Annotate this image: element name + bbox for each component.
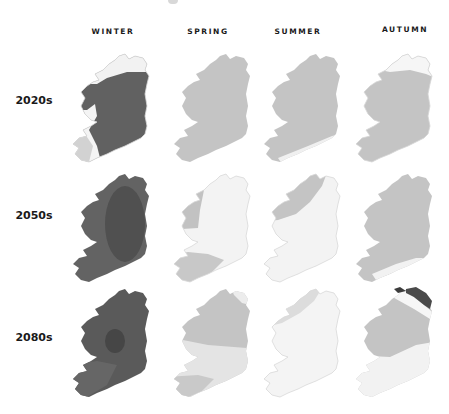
map-2050s-autumn	[350, 170, 440, 288]
map-2080s-winter	[67, 285, 157, 403]
map-2080s-spring	[168, 285, 258, 403]
map-2050s-summer	[258, 170, 348, 288]
row-label-2050s: 2050s	[14, 209, 54, 222]
map-2020s-autumn	[350, 50, 440, 168]
map-2020s-spring	[168, 50, 258, 168]
map-2020s-summer	[258, 50, 348, 168]
map-2050s-spring	[168, 170, 258, 288]
column-header-autumn: AUTUMN	[365, 25, 445, 34]
column-header-summer: SUMMER	[258, 27, 338, 36]
column-header-spring: SPRING	[168, 27, 248, 36]
map-2050s-winter	[67, 170, 157, 288]
row-label-2080s: 2080s	[14, 331, 54, 344]
row-label-2020s: 2020s	[14, 94, 54, 107]
map-2080s-autumn	[350, 285, 440, 403]
column-header-winter: WINTER	[73, 27, 153, 36]
artifact-mark	[168, 0, 178, 4]
map-2020s-winter	[67, 50, 157, 168]
map-2080s-summer	[258, 285, 348, 403]
